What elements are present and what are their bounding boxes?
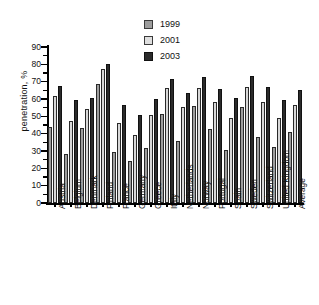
x-axis-tick <box>214 203 215 207</box>
x-label-sweden: Sweden <box>250 179 258 209</box>
x-label-spain: Spain <box>234 188 242 209</box>
x-axis-tick <box>294 203 295 207</box>
x-axis-tick <box>198 203 199 207</box>
x-axis-tick <box>246 203 247 207</box>
x-axis-tick <box>118 203 119 207</box>
x-axis-tick <box>86 203 87 207</box>
x-label-denmark: Denmark <box>90 175 98 209</box>
bar-chart: penetration, % 0102030405060708090 Austr… <box>0 0 319 305</box>
x-label-greece: Greece <box>154 182 162 209</box>
x-label-france: France <box>122 183 130 209</box>
x-axis-tick <box>166 203 167 207</box>
x-axis-tick <box>262 203 263 207</box>
legend-swatch-2001 <box>144 36 153 45</box>
x-label-belgium: Belgium <box>74 179 82 209</box>
x-axis-tick <box>134 203 135 207</box>
bar-italy-2001 <box>165 88 169 203</box>
legend-swatch-2003 <box>144 52 153 61</box>
bar-group <box>159 47 175 203</box>
x-label-germany: Germany <box>138 175 146 209</box>
legend-label-2001: 2001 <box>160 36 180 45</box>
legend-item-2003: 2003 <box>144 48 180 64</box>
legend-label-2003: 2003 <box>160 52 180 61</box>
x-axis-tick <box>182 203 183 207</box>
x-label-switzerland: Switzerland <box>266 166 274 209</box>
bar-italy-2003 <box>170 79 174 203</box>
legend-label-1999: 1999 <box>160 20 180 29</box>
legend-swatch-1999 <box>144 20 153 29</box>
legend-item-2001: 2001 <box>144 32 180 48</box>
x-label-italy: Italy <box>170 194 178 209</box>
y-axis-tick-label: 40 <box>21 129 41 138</box>
x-label-average: Average <box>298 178 306 209</box>
y-axis-tick-label: 10 <box>21 181 41 190</box>
x-label-austria: Austria <box>58 183 66 209</box>
x-label-portugal: Portugal <box>218 178 226 209</box>
x-label-norway: Norway <box>202 181 210 209</box>
chart-legend: 199920012003 <box>144 16 180 64</box>
x-axis-tick <box>54 203 55 207</box>
x-axis-tick <box>150 203 151 207</box>
y-axis-tick-label: 60 <box>21 95 41 104</box>
x-label-united-kingdom: United Kingdom <box>282 150 290 209</box>
y-axis-tick-label: 70 <box>21 77 41 86</box>
y-axis-tick-label: 50 <box>21 112 41 121</box>
x-label-netherlands: Netherlands <box>186 164 194 209</box>
legend-item-1999: 1999 <box>144 16 180 32</box>
y-axis-tick-label: 30 <box>21 147 41 156</box>
bar-austria-1999 <box>48 127 52 203</box>
y-axis-tick-label: 80 <box>21 60 41 69</box>
x-axis-tick <box>278 203 279 207</box>
x-axis-tick <box>230 203 231 207</box>
y-axis-tick-label: 90 <box>21 43 41 52</box>
x-axis-tick <box>102 203 103 207</box>
x-label-finland: Finland <box>106 182 114 209</box>
y-axis-tick-label: 20 <box>21 164 41 173</box>
y-axis-tick-label: 0 <box>21 199 41 208</box>
bar-group <box>47 47 63 203</box>
bar-group <box>111 47 127 203</box>
x-axis-tick <box>70 203 71 207</box>
